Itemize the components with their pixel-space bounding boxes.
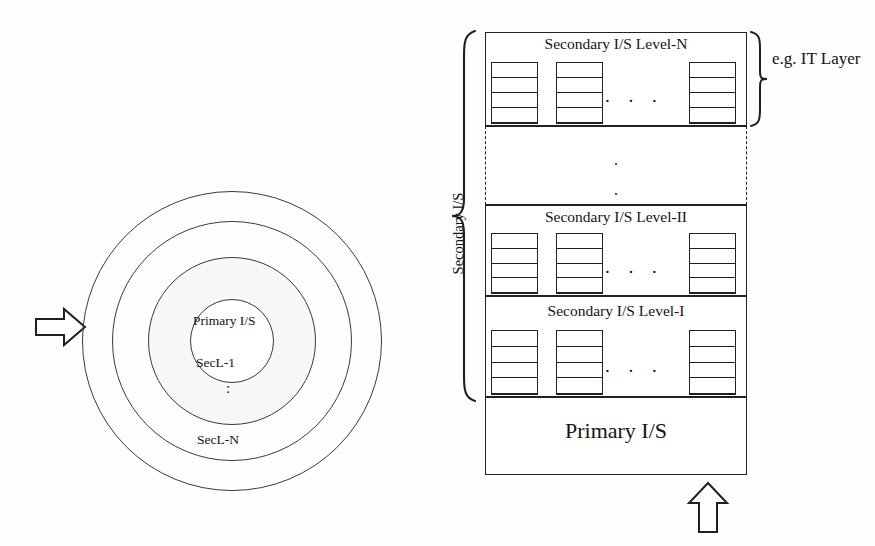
shelf-row-level-ii: . . . xyxy=(486,205,746,294)
shelf-row-level-i: . . . xyxy=(486,296,746,395)
stack-diagram: Secondary I/S Secondary I/S Level-N . . … xyxy=(0,0,875,546)
shelf-unit xyxy=(556,62,603,124)
shelf-unit xyxy=(689,330,736,395)
shelf-ellipsis-level-n: . . . xyxy=(605,85,664,107)
shelf-unit xyxy=(491,330,538,395)
layer-box-level-ii: Secondary I/S Level-II . . . xyxy=(485,205,747,296)
layer-ellipsis-dots: . . xyxy=(486,145,746,205)
shelf-unit xyxy=(689,62,736,124)
shelf-ellipsis-level-i: . . . xyxy=(605,355,664,377)
it-layer-label: e.g. IT Layer xyxy=(772,48,862,71)
layer-box-primary-is: Primary I/S xyxy=(485,397,747,475)
ellipsis-dot: . xyxy=(486,145,746,175)
it-layer-brace-icon xyxy=(748,29,770,129)
layer-box-level-n: Secondary I/S Level-N . . . xyxy=(485,32,747,126)
stack-input-arrow-icon xyxy=(686,481,730,535)
secondary-is-brace-label: Secondary I/S xyxy=(450,174,467,294)
shelf-unit xyxy=(689,233,736,294)
shelf-unit xyxy=(556,233,603,294)
shelf-ellipsis-level-ii: . . . xyxy=(605,256,664,278)
layer-box-ellipsis: . . xyxy=(485,126,747,205)
shelf-unit xyxy=(491,62,538,124)
shelf-unit xyxy=(556,330,603,395)
primary-is-label: Primary I/S xyxy=(486,418,746,444)
layer-box-level-i: Secondary I/S Level-I . . . xyxy=(485,296,747,397)
figure-canvas: Primary I/S SecL-1 : SecL-N Secondary I/… xyxy=(0,0,875,546)
shelf-row-level-n: . . . xyxy=(486,32,746,124)
ellipsis-dot: . xyxy=(486,175,746,205)
shelf-unit xyxy=(491,233,538,294)
